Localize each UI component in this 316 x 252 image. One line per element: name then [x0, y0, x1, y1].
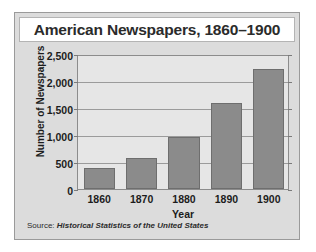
y-axis-tick-mark — [74, 136, 78, 137]
chart-panel: Number of Newspapers 05001,0001,5002,000… — [19, 44, 295, 236]
y-axis-title: Number of Newspapers — [35, 42, 46, 162]
y-axis-tick-mark — [74, 82, 78, 83]
source-title: Historical Statistics of the United Stat… — [57, 221, 209, 230]
plot-area: 05001,0001,5002,0002,5001860187018801890… — [77, 55, 289, 190]
x-axis-tick-label: 1860 — [88, 193, 111, 205]
y-axis-tick-mark — [74, 163, 78, 164]
x-axis-tick-label: 1890 — [215, 193, 238, 205]
y-axis-tick-label: 0 — [67, 185, 73, 197]
y-axis-tick-mark — [288, 82, 292, 83]
bar-1890 — [211, 103, 242, 189]
page-title: American Newspapers, 1860–1900 — [34, 21, 280, 39]
y-axis-tick-label: 1,500 — [47, 104, 73, 116]
y-axis-tick-label: 1,000 — [47, 131, 73, 143]
x-axis-tick-label: 1900 — [257, 193, 280, 205]
bar-1880 — [168, 137, 199, 189]
y-axis-tick-mark — [288, 55, 292, 56]
bar-1860 — [84, 168, 115, 189]
chart-title-band: American Newspapers, 1860–1900 — [19, 17, 295, 42]
bar-1870 — [126, 158, 157, 189]
source-prefix: Source: — [27, 221, 55, 230]
x-axis-tick-label: 1880 — [172, 193, 195, 205]
y-axis-tick-mark — [288, 109, 292, 110]
y-axis-tick-mark — [288, 190, 292, 191]
y-axis-tick-mark — [74, 190, 78, 191]
y-axis-tick-label: 500 — [55, 158, 73, 170]
x-axis-tick-label: 1870 — [130, 193, 153, 205]
y-axis-tick-mark — [74, 109, 78, 110]
x-axis-title: Year — [77, 208, 289, 220]
chart-figure: American Newspapers, 1860–1900 Number of… — [14, 12, 300, 240]
y-axis-tick-mark — [288, 163, 292, 164]
bar-1900 — [253, 69, 284, 189]
y-axis-tick-mark — [288, 136, 292, 137]
source-note: Source: Historical Statistics of the Uni… — [27, 221, 208, 230]
y-axis-tick-label: 2,000 — [47, 77, 73, 89]
y-axis-tick-label: 2,500 — [47, 50, 73, 62]
y-axis-tick-mark — [74, 55, 78, 56]
